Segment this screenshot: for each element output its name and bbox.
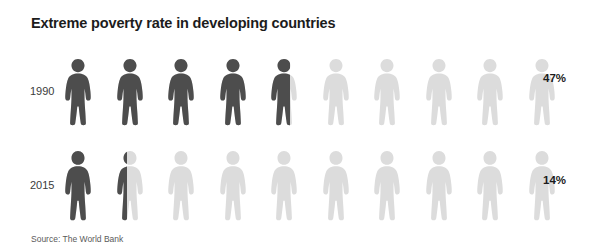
person-icon-empty-part	[166, 150, 196, 221]
person-icon-filled-part	[218, 58, 248, 126]
person-icon-empty-part	[372, 58, 402, 126]
person-icon-filled-part	[63, 58, 93, 126]
pictogram-row-1990: 1990 47%	[0, 58, 599, 128]
person-icon-filled-part	[166, 58, 196, 126]
poverty-pictogram-infographic: Extreme poverty rate in developing count…	[0, 0, 599, 246]
figure-strip-2015	[63, 150, 557, 221]
person-icon	[475, 150, 505, 221]
person-icon-empty-part	[269, 150, 299, 221]
person-icon	[115, 58, 145, 126]
figure-strip-1990	[63, 58, 557, 126]
row-value-1990: 47%	[543, 72, 566, 84]
person-icon-empty-part	[321, 58, 351, 126]
person-icon	[372, 58, 402, 126]
person-icon	[372, 150, 402, 221]
person-icon-empty-part	[424, 58, 454, 126]
person-icon	[166, 58, 196, 126]
person-icon-empty-part	[218, 150, 248, 221]
person-icon-filled-part	[63, 150, 93, 221]
person-icon-filled-part	[115, 58, 145, 126]
person-icon	[218, 150, 248, 221]
person-icon	[424, 58, 454, 126]
person-icon	[424, 150, 454, 221]
person-icon	[218, 58, 248, 126]
person-icon-empty-part	[527, 58, 557, 126]
person-icon-empty-part	[372, 150, 402, 221]
person-icon	[115, 150, 145, 221]
source-note: Source: The World Bank	[31, 234, 123, 244]
page-title: Extreme poverty rate in developing count…	[31, 15, 335, 31]
person-icon	[166, 150, 196, 221]
person-icon	[527, 58, 557, 126]
pictogram-row-2015: 2015 14%	[0, 150, 599, 224]
person-icon	[321, 58, 351, 126]
person-icon	[475, 58, 505, 126]
row-value-2015: 14%	[543, 174, 566, 186]
person-icon-filled-part	[115, 150, 128, 221]
person-icon	[321, 150, 351, 221]
person-icon	[63, 150, 93, 221]
person-icon-empty-part	[475, 58, 505, 126]
person-icon-empty-part	[321, 150, 351, 221]
person-icon-filled-part	[269, 58, 290, 126]
person-icon	[63, 58, 93, 126]
person-icon-empty-part	[424, 150, 454, 221]
person-icon-empty-part	[475, 150, 505, 221]
person-icon	[269, 58, 299, 126]
person-icon	[269, 150, 299, 221]
